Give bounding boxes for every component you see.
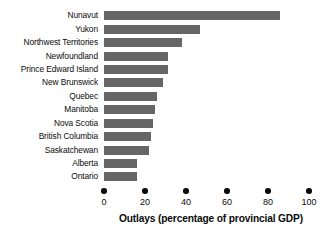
bar — [104, 11, 280, 20]
x-axis-tick-label: 80 — [263, 197, 273, 208]
bar-category-label: Yukon — [0, 25, 101, 34]
bar — [104, 92, 157, 101]
bar-row: Northwest Territories — [0, 36, 330, 49]
bar — [104, 146, 149, 155]
bar — [104, 52, 168, 61]
bar-category-label: Prince Edward Island — [0, 65, 101, 74]
bar-row: Ontario — [0, 170, 330, 183]
bar — [104, 78, 163, 87]
bar-category-label: Northwest Territories — [0, 38, 101, 47]
bar — [104, 105, 155, 114]
bar-track — [104, 90, 330, 103]
x-axis-tick-dot — [183, 188, 189, 194]
bar-row: Newfoundland — [0, 49, 330, 62]
x-axis-tick-dot — [265, 188, 271, 194]
bar-track — [104, 36, 330, 49]
x-axis-tick-dot — [101, 188, 107, 194]
bar — [104, 159, 137, 168]
bar — [104, 119, 153, 128]
bar — [104, 65, 168, 74]
bar-row: Quebec — [0, 90, 330, 103]
bar-category-label: Quebec — [0, 92, 101, 101]
x-axis: Outlays (percentage of provincial GDP) 0… — [0, 188, 330, 239]
bar-row: Nunavut — [0, 9, 330, 22]
bar-row: Saskatchewan — [0, 143, 330, 156]
x-axis-tick-label: 60 — [222, 197, 232, 208]
bar-category-label: Manitoba — [0, 105, 101, 114]
bar-category-label: Nunavut — [0, 11, 101, 20]
bar-track — [104, 130, 330, 143]
bar-row: Yukon — [0, 22, 330, 35]
bar-category-label: Saskatchewan — [0, 146, 101, 155]
bar-category-label: Nova Scotia — [0, 119, 101, 128]
x-axis-tick-dot — [142, 188, 148, 194]
bar-track — [104, 49, 330, 62]
x-axis-title: Outlays (percentage of provincial GDP) — [0, 212, 330, 225]
x-axis-tick-label: 20 — [140, 197, 150, 208]
bar-row: New Brunswick — [0, 76, 330, 89]
bar-track — [104, 76, 330, 89]
bar-track — [104, 157, 330, 170]
bar-row: Prince Edward Island — [0, 63, 330, 76]
bar-category-label: Ontario — [0, 172, 101, 181]
x-axis-tick-label: 40 — [181, 197, 191, 208]
bar — [104, 25, 200, 34]
bar-track — [104, 63, 330, 76]
bar-category-label: New Brunswick — [0, 78, 101, 87]
x-axis-tick-dot — [224, 188, 230, 194]
x-axis-tick-label: 100 — [301, 197, 316, 208]
bar-category-label: British Columbia — [0, 132, 101, 141]
bar-track — [104, 9, 330, 22]
bar-row: Manitoba — [0, 103, 330, 116]
x-axis-tick-label: 0 — [101, 197, 106, 208]
bar-row: Nova Scotia — [0, 117, 330, 130]
bar-row: Alberta — [0, 157, 330, 170]
bar — [104, 172, 137, 181]
chart-plot-area: NunavutYukonNorthwest TerritoriesNewfoun… — [0, 9, 330, 184]
bar-category-label: Newfoundland — [0, 52, 101, 61]
bar-track — [104, 170, 330, 183]
bar-row: British Columbia — [0, 130, 330, 143]
bar-track — [104, 117, 330, 130]
bar-chart: NunavutYukonNorthwest TerritoriesNewfoun… — [0, 0, 330, 239]
bar-category-label: Alberta — [0, 159, 101, 168]
bar-track — [104, 143, 330, 156]
bar-track — [104, 22, 330, 35]
bar — [104, 38, 182, 47]
bar — [104, 132, 151, 141]
bar-track — [104, 103, 330, 116]
x-axis-tick-dot — [306, 188, 312, 194]
